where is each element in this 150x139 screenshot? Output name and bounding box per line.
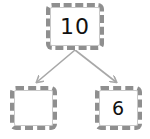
whole-value: 10 [60,16,90,38]
right-part-value: 6 [112,99,125,118]
whole-box: 10 [46,3,104,50]
arrow-to-right-part [75,50,116,82]
arrow-to-left-part [37,50,75,82]
part-box-right: 6 [95,86,142,130]
part-box-left-empty[interactable] [10,86,57,130]
